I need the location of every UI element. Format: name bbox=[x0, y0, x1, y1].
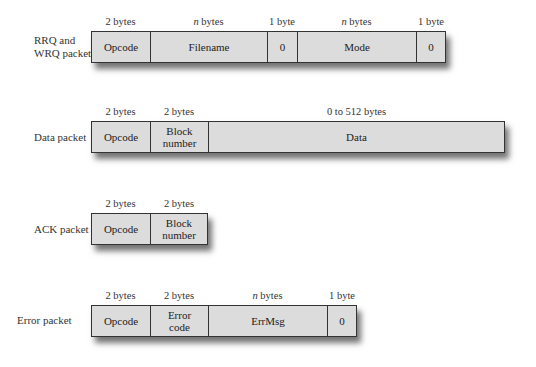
size-opcode: 2 bytes bbox=[91, 290, 150, 302]
field-opcode: Opcode bbox=[92, 306, 151, 336]
row-label-data: Data packet bbox=[34, 131, 86, 144]
size-zero-2: 1 byte bbox=[416, 16, 446, 28]
size-mode: n bytes bbox=[297, 16, 416, 28]
row-label-rrq-wrq: RRQ and WRQ packets bbox=[34, 34, 95, 60]
field-block-number: Blocknumber bbox=[151, 122, 209, 152]
packet-rrq-wrq: Opcode Filename 0 Mode 0 bbox=[91, 31, 446, 63]
label-line: ACK packet bbox=[34, 223, 89, 236]
field-error-code: Errorcode bbox=[151, 306, 209, 336]
packet-ack: Opcode Blocknumber bbox=[91, 213, 208, 245]
field-mode: Mode bbox=[298, 32, 417, 62]
label-line: WRQ packets bbox=[34, 47, 95, 60]
size-block-number: 2 bytes bbox=[150, 198, 208, 210]
size-filename: n bytes bbox=[150, 16, 267, 28]
field-opcode: Opcode bbox=[92, 32, 151, 62]
label-line: RRQ and bbox=[34, 34, 95, 47]
size-error-code: 2 bytes bbox=[150, 290, 208, 302]
size-zero-1: 1 byte bbox=[267, 16, 297, 28]
size-opcode: 2 bytes bbox=[91, 16, 150, 28]
field-block-number: Blocknumber bbox=[151, 214, 207, 244]
label-line: Error packet bbox=[17, 314, 72, 327]
size-block-number: 2 bytes bbox=[150, 106, 208, 118]
size-zero: 1 byte bbox=[327, 290, 357, 302]
field-zero: 0 bbox=[328, 306, 356, 336]
size-opcode: 2 bytes bbox=[91, 198, 150, 210]
size-errmsg: n bytes bbox=[208, 290, 327, 302]
field-opcode: Opcode bbox=[92, 122, 151, 152]
row-label-error: Error packet bbox=[17, 314, 72, 327]
field-zero-2: 0 bbox=[417, 32, 445, 62]
packet-error: Opcode Errorcode ErrMsg 0 bbox=[91, 305, 357, 337]
field-errmsg: ErrMsg bbox=[209, 306, 328, 336]
field-opcode: Opcode bbox=[92, 214, 151, 244]
field-filename: Filename bbox=[151, 32, 268, 62]
field-zero-1: 0 bbox=[268, 32, 298, 62]
size-opcode: 2 bytes bbox=[91, 106, 150, 118]
size-data: 0 to 512 bytes bbox=[208, 106, 505, 118]
field-data: Data bbox=[209, 122, 504, 152]
label-line: Data packet bbox=[34, 131, 86, 144]
row-label-ack: ACK packet bbox=[34, 223, 89, 236]
packet-data: Opcode Blocknumber Data bbox=[91, 121, 505, 153]
